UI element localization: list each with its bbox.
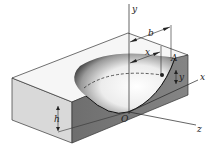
- paraboloid-block-diagram: y x z O A b x y h: [0, 0, 209, 148]
- origin-label: O: [121, 114, 129, 124]
- z-axis-label: z: [196, 124, 202, 134]
- dim-b-label: b: [148, 28, 154, 38]
- dim-b-arrow-right: [163, 27, 170, 31]
- point-on-curve: [160, 73, 164, 77]
- dim-y-label: y: [178, 72, 185, 82]
- diagram-canvas: y x z O A b x y h: [0, 0, 209, 148]
- y-axis-label: y: [131, 4, 138, 14]
- x-axis-label: x: [200, 72, 205, 82]
- dim-h-label: h: [54, 114, 60, 124]
- dim-x-label: x: [145, 47, 150, 57]
- z-axis-line: [129, 112, 196, 125]
